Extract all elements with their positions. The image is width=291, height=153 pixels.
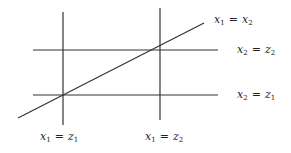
label-sub: 1 bbox=[151, 136, 155, 144]
label-sub: 1 bbox=[74, 136, 78, 144]
label-sub: 2 bbox=[179, 136, 183, 144]
label-op: = bbox=[252, 88, 261, 101]
label-x2-eq-z2: x2=z2 bbox=[237, 44, 275, 57]
label-sub: 2 bbox=[243, 94, 247, 102]
label-sub: 1 bbox=[271, 94, 275, 102]
diagonal-line-x1-eq-x2 bbox=[18, 23, 204, 118]
label-x2-eq-z1: x2=z1 bbox=[237, 89, 275, 102]
label-op: = bbox=[160, 130, 169, 143]
label-x1-eq-x2: x1=x2 bbox=[214, 14, 253, 27]
label-op: = bbox=[252, 43, 261, 56]
label-sub: 2 bbox=[248, 19, 252, 27]
label-sub: 1 bbox=[46, 136, 50, 144]
label-x1-eq-z1: x1=z1 bbox=[40, 131, 78, 144]
label-op: = bbox=[55, 130, 64, 143]
label-sub: 2 bbox=[271, 49, 275, 57]
diagram-canvas: x1=x2 x2=z2 x2=z1 x1=z1 x1=z2 bbox=[0, 0, 291, 153]
label-x1-eq-z2: x1=z2 bbox=[145, 131, 183, 144]
label-sub: 1 bbox=[220, 19, 224, 27]
label-op: = bbox=[229, 13, 238, 26]
label-sub: 2 bbox=[243, 49, 247, 57]
